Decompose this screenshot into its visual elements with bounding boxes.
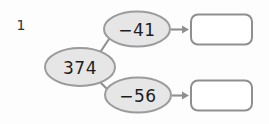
arrow-right-icon-upper xyxy=(171,26,189,34)
answer-box-lower[interactable] xyxy=(191,81,252,111)
item-number: 1 xyxy=(17,17,26,33)
function-machine-diagram: 374 −41 −56 1 xyxy=(0,0,269,124)
start-node-label: 374 xyxy=(63,58,97,78)
worksheet-canvas: 374 −41 −56 1 xyxy=(0,0,269,124)
answer-box-upper[interactable] xyxy=(191,15,252,45)
operation-node-label-lower: −56 xyxy=(119,86,156,106)
operation-node-label-upper: −41 xyxy=(118,20,155,40)
arrow-right-icon-lower xyxy=(172,92,189,100)
